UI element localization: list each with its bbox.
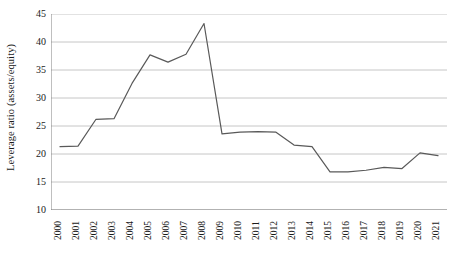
x-tick-label: 2021 — [432, 196, 442, 240]
x-tick-label: 2004 — [126, 196, 136, 240]
x-tick-label: 2015 — [324, 196, 334, 240]
x-tick-label: 2017 — [360, 196, 370, 240]
leverage-ratio-line-chart: Leverage ratio (assets/equity) 101520253… — [0, 0, 461, 257]
y-tick-label: 35 — [24, 65, 46, 75]
y-axis-title-text: Leverage ratio (assets/equity) — [6, 44, 17, 171]
plot-area — [51, 14, 447, 210]
x-tick-label: 2012 — [270, 196, 280, 240]
y-tick-label: 40 — [24, 37, 46, 47]
gridlines — [51, 14, 447, 210]
x-tick-label: 2020 — [414, 196, 424, 240]
x-tick-label: 2018 — [378, 196, 388, 240]
y-axis-tick-labels: 1015202530354045 — [22, 0, 46, 257]
x-tick-label: 2016 — [342, 196, 352, 240]
y-tick-label: 10 — [24, 205, 46, 215]
x-tick-label: 2000 — [54, 196, 64, 240]
x-tick-label: 2008 — [198, 196, 208, 240]
x-tick-label: 2006 — [162, 196, 172, 240]
x-tick-label: 2007 — [180, 196, 190, 240]
y-axis-title: Leverage ratio (assets/equity) — [0, 0, 22, 215]
x-tick-label: 2014 — [306, 196, 316, 240]
y-tick-label: 20 — [24, 149, 46, 159]
y-tick-label: 30 — [24, 93, 46, 103]
x-tick-label: 2005 — [144, 196, 154, 240]
x-tick-label: 2001 — [72, 196, 82, 240]
y-tick-label: 25 — [24, 121, 46, 131]
x-tick-label: 2013 — [288, 196, 298, 240]
x-tick-label: 2019 — [396, 196, 406, 240]
x-tick-label: 2011 — [252, 196, 262, 240]
plot-svg — [51, 14, 447, 210]
x-tick-label: 2009 — [216, 196, 226, 240]
x-axis-tick-labels: 2000200120022003200420052006200720082009… — [51, 212, 447, 257]
x-tick-label: 2002 — [90, 196, 100, 240]
y-tick-label: 15 — [24, 177, 46, 187]
axis-lines — [51, 14, 447, 210]
x-tick-label: 2010 — [234, 196, 244, 240]
y-tick-label: 45 — [24, 9, 46, 19]
x-tick-label: 2003 — [108, 196, 118, 240]
